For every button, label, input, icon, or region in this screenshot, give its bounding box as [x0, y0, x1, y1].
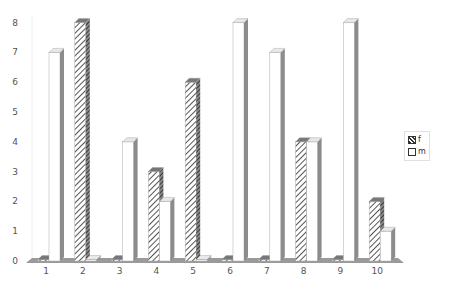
y-tick-label: 0	[12, 256, 18, 266]
x-tick-label: 5	[190, 266, 196, 276]
bar-f	[75, 19, 90, 261]
x-tick-label: 2	[80, 266, 86, 276]
x-tick-label: 6	[227, 266, 233, 276]
y-tick-label: 4	[12, 137, 18, 147]
bar-m	[159, 197, 174, 261]
bar-m	[270, 48, 285, 261]
x-tick-label: 4	[154, 266, 160, 276]
y-tick-label: 8	[12, 18, 18, 28]
x-axis: 12345678910	[43, 266, 383, 276]
x-tick-label: 8	[301, 266, 307, 276]
legend-item-f: f	[408, 135, 421, 145]
x-tick-label: 9	[338, 266, 344, 276]
x-tick-label: 1	[43, 266, 49, 276]
bar-m	[123, 138, 138, 261]
bar-chart: 012345678 12345678910	[0, 0, 461, 290]
y-tick-label: 2	[12, 196, 18, 206]
hatched-swatch-icon	[408, 136, 416, 144]
y-tick-label: 3	[12, 167, 18, 177]
white-swatch-icon	[408, 148, 416, 156]
bar-m	[380, 227, 395, 261]
x-tick-label: 10	[371, 266, 383, 276]
y-axis: 012345678	[12, 18, 18, 266]
bar-m	[307, 138, 322, 261]
legend-label-m: m	[418, 147, 426, 157]
bar-m	[233, 19, 248, 261]
legend-item-m: m	[408, 147, 426, 157]
y-tick-label: 5	[12, 107, 18, 117]
bar-m	[343, 19, 358, 261]
legend-label-f: f	[418, 135, 421, 145]
x-tick-label: 3	[117, 266, 123, 276]
bar-f	[185, 78, 200, 261]
legend: f m	[404, 131, 430, 161]
y-tick-label: 7	[12, 47, 18, 57]
y-tick-label: 1	[12, 226, 18, 236]
x-tick-label: 7	[264, 266, 270, 276]
bars	[38, 19, 395, 261]
y-tick-label: 6	[12, 77, 18, 87]
bar-m	[49, 48, 64, 261]
